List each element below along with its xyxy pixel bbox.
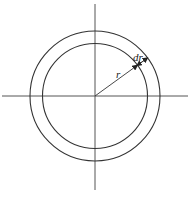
annulus-diagram: r dr — [0, 0, 193, 198]
radius-label: r — [116, 68, 121, 80]
thickness-label: dr — [133, 51, 144, 63]
